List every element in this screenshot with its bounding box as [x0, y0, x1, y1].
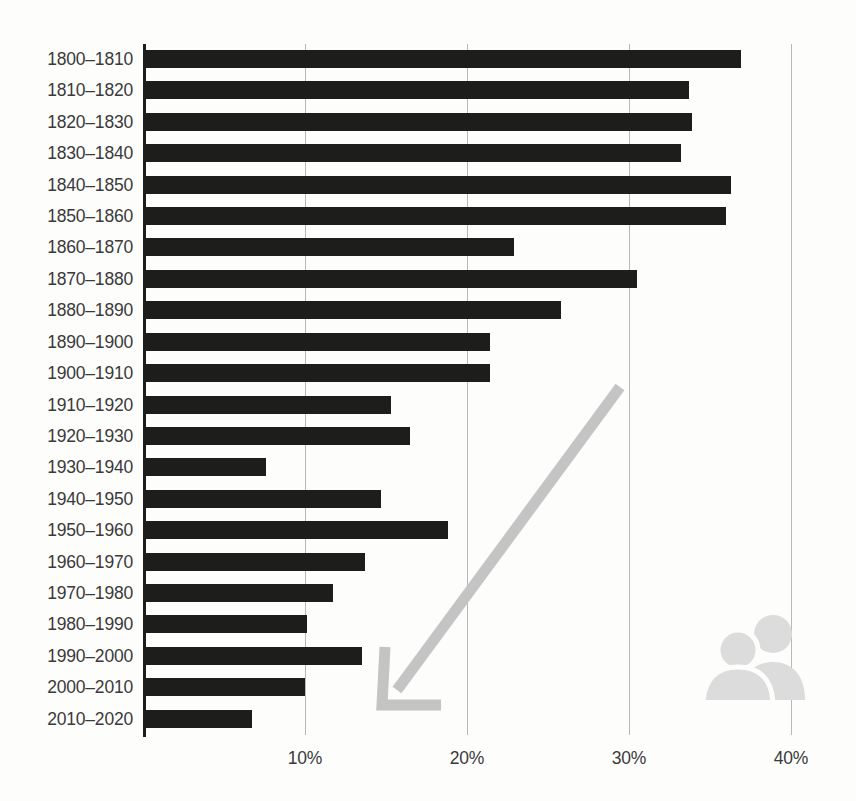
- bar-row: [143, 578, 833, 608]
- bar-row: [143, 170, 833, 200]
- y-axis-tick-label: 1950–1960: [5, 521, 133, 539]
- bar-row: [143, 390, 833, 420]
- bar-row: [143, 452, 833, 482]
- y-axis-tick-label: 1890–1900: [5, 333, 133, 351]
- bar-row: [143, 44, 833, 74]
- y-axis-tick-label: 1940–1950: [5, 490, 133, 508]
- bar: [143, 333, 490, 351]
- y-axis-tick-label: 1970–1980: [5, 584, 133, 602]
- bar-chart: 1800–18101810–18201820–18301830–18401840…: [0, 0, 856, 801]
- y-axis-tick-label: 1860–1870: [5, 238, 133, 256]
- x-axis-tick-label: 40%: [774, 748, 808, 769]
- y-axis-tick-label: 1830–1840: [5, 144, 133, 162]
- y-axis-tick-label: 1930–1940: [5, 458, 133, 476]
- bar: [143, 647, 362, 665]
- bar: [143, 584, 333, 602]
- y-axis-tick-label: 1920–1930: [5, 427, 133, 445]
- y-axis-tick-label: 1840–1850: [5, 176, 133, 194]
- bar-row: [143, 295, 833, 325]
- bar: [143, 81, 689, 99]
- y-axis-tick-label: 1910–1920: [5, 396, 133, 414]
- bar-row: [143, 484, 833, 514]
- y-axis-tick-label: 1900–1910: [5, 364, 133, 382]
- bar: [143, 427, 410, 445]
- bar-row: [143, 264, 833, 294]
- bar: [143, 553, 365, 571]
- bar: [143, 615, 307, 633]
- bar: [143, 50, 741, 68]
- bar-row: [143, 75, 833, 105]
- bar-row: [143, 704, 833, 734]
- x-axis-tick-label: 30%: [612, 748, 646, 769]
- bar: [143, 521, 448, 539]
- bar: [143, 176, 731, 194]
- y-axis-tick-label: 1870–1880: [5, 270, 133, 288]
- x-axis-tick-labels: 10%20%30%40%: [143, 748, 843, 778]
- bar: [143, 207, 726, 225]
- bar: [143, 113, 692, 131]
- bar-row: [143, 138, 833, 168]
- y-axis-tick-label: 2010–2020: [5, 710, 133, 728]
- y-axis-tick-label: 1850–1860: [5, 207, 133, 225]
- bar-row: [143, 232, 833, 262]
- y-axis-tick-labels: 1800–18101810–18201820–18301830–18401840…: [0, 44, 133, 735]
- people-icon: [697, 612, 809, 700]
- bar-row: [143, 547, 833, 577]
- bar-row: [143, 358, 833, 388]
- bar: [143, 364, 490, 382]
- y-axis-tick-label: 2000–2010: [5, 678, 133, 696]
- y-axis-tick-label: 1820–1830: [5, 113, 133, 131]
- page-title: [18, 0, 838, 6]
- bar: [143, 301, 561, 319]
- bar: [143, 490, 381, 508]
- bar: [143, 144, 681, 162]
- y-axis-tick-label: 1960–1970: [5, 553, 133, 571]
- bar-row: [143, 107, 833, 137]
- y-axis-tick-label: 1990–2000: [5, 647, 133, 665]
- bar: [143, 678, 305, 696]
- y-axis-tick-label: 1980–1990: [5, 615, 133, 633]
- x-axis-tick-label: 20%: [450, 748, 484, 769]
- bar-row: [143, 201, 833, 231]
- bar-row: [143, 421, 833, 451]
- y-axis-tick-label: 1880–1890: [5, 301, 133, 319]
- bar: [143, 270, 637, 288]
- y-axis-tick-label: 1810–1820: [5, 81, 133, 99]
- bar-row: [143, 327, 833, 357]
- bar: [143, 238, 514, 256]
- bar: [143, 710, 252, 728]
- bar: [143, 396, 391, 414]
- x-axis-tick-label: 10%: [288, 748, 322, 769]
- y-axis-tick-label: 1800–1810: [5, 50, 133, 68]
- bar: [143, 458, 266, 476]
- bar-row: [143, 515, 833, 545]
